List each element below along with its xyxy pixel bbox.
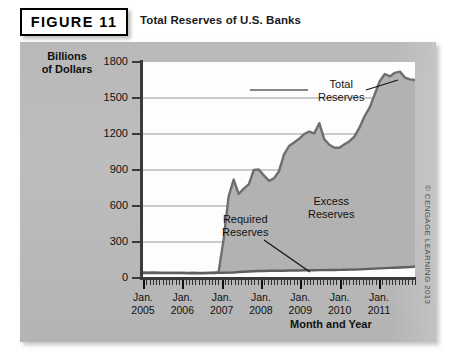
x-axis-major-tick (340, 280, 342, 289)
x-axis-minor-tick (346, 280, 347, 285)
x-axis-label-year: 2008 (249, 304, 272, 316)
x-axis-tick-label: Jan.2011 (355, 291, 403, 316)
x-axis-minor-tick (195, 280, 196, 285)
x-axis-minor-tick (159, 280, 160, 285)
y-axis-tick (132, 61, 141, 63)
x-axis-minor-tick (228, 280, 229, 285)
x-axis-minor-tick (402, 280, 403, 285)
y-axis-tick-label: 1500 (28, 91, 128, 103)
x-axis-label-year: 2011 (368, 304, 391, 316)
x-axis-minor-tick (366, 280, 367, 285)
annotation-excess-reserves-line2: Reserves (308, 208, 354, 220)
x-axis-minor-tick (205, 280, 206, 285)
x-axis-minor-tick (231, 280, 232, 285)
x-axis-minor-tick (146, 280, 147, 285)
x-axis-minor-tick (241, 280, 242, 285)
x-axis-minor-tick (327, 280, 328, 285)
x-axis-minor-tick (353, 280, 354, 285)
x-axis-minor-tick (317, 280, 318, 285)
x-axis-label-month: Jan. (290, 291, 310, 303)
x-axis-minor-tick (333, 280, 334, 285)
x-axis-minor-tick (274, 280, 275, 285)
x-axis-minor-tick (251, 280, 252, 285)
annotation-total-reserves-line1: Total (330, 78, 353, 90)
y-axis-tick-label: 0 (28, 271, 128, 283)
x-axis-label-year: 2007 (210, 304, 233, 316)
x-axis-minor-tick (277, 280, 278, 285)
x-axis-minor-tick (320, 280, 321, 285)
x-axis-minor-tick (248, 280, 249, 285)
x-axis-title: Month and Year (290, 318, 372, 330)
x-axis-label-month: Jan. (330, 291, 350, 303)
x-axis-label-month: Jan. (212, 291, 232, 303)
plot-area (143, 62, 415, 278)
x-axis-minor-tick (284, 280, 285, 285)
y-axis-tick-label: 300 (28, 235, 128, 247)
x-axis-major-tick (300, 280, 302, 289)
x-axis-minor-tick (415, 280, 416, 285)
x-axis-minor-tick (225, 280, 226, 285)
x-axis-minor-tick (412, 280, 413, 285)
x-axis-tickmarks (140, 280, 416, 289)
y-axis-tick (132, 133, 141, 135)
x-axis-minor-tick (281, 280, 282, 285)
x-axis-label-month: Jan. (251, 291, 271, 303)
x-axis-minor-tick (264, 280, 265, 285)
x-axis-label-month: Jan. (369, 291, 389, 303)
x-axis-label-year: 2006 (171, 304, 194, 316)
x-axis-minor-tick (150, 280, 151, 285)
figure-badge-label: FIGURE 11 (31, 14, 118, 30)
x-axis-minor-tick (336, 280, 337, 285)
x-axis-minor-tick (169, 280, 170, 285)
x-axis-minor-tick (212, 280, 213, 285)
x-axis-minor-tick (172, 280, 173, 285)
x-axis-label-year: 2005 (131, 304, 154, 316)
x-axis-major-tick (222, 280, 224, 289)
annotation-required-reserves: Required Reserves (222, 213, 268, 239)
x-axis-minor-tick (189, 280, 190, 285)
x-axis-minor-tick (179, 280, 180, 285)
x-axis-minor-tick (310, 280, 311, 285)
x-axis-minor-tick (307, 280, 308, 285)
annotation-excess-reserves: Excess Reserves (308, 195, 354, 221)
annotation-required-reserves-line2: Reserves (222, 226, 268, 238)
x-axis-minor-tick (343, 280, 344, 285)
x-axis-minor-tick (372, 280, 373, 285)
x-axis-label-month: Jan. (133, 291, 153, 303)
x-axis-minor-tick (163, 280, 164, 285)
x-axis-minor-tick (323, 280, 324, 285)
x-axis-minor-tick (363, 280, 364, 285)
x-axis-minor-tick (290, 280, 291, 285)
x-axis-minor-tick (202, 280, 203, 285)
x-axis-label-year: 2009 (289, 304, 312, 316)
chart-series-svg (143, 62, 415, 278)
annotation-total-reserves: Total Reserves (318, 78, 364, 104)
y-axis-tick (132, 97, 141, 99)
x-axis-minor-tick (209, 280, 210, 285)
x-axis-minor-tick (238, 280, 239, 285)
x-axis-minor-tick (235, 280, 236, 285)
y-axis-tick (132, 169, 141, 171)
x-axis-minor-tick (258, 280, 259, 285)
y-axis-tick-label: 1800 (28, 55, 128, 67)
x-axis-minor-tick (156, 280, 157, 285)
annotation-required-reserves-line1: Required (223, 213, 268, 225)
y-axis-tick (132, 205, 141, 207)
x-axis-minor-tick (287, 280, 288, 285)
x-axis-minor-tick (199, 280, 200, 285)
x-axis-minor-tick (192, 280, 193, 285)
x-axis-minor-tick (356, 280, 357, 285)
x-axis-minor-tick (268, 280, 269, 285)
x-axis-minor-tick (254, 280, 255, 285)
y-axis-tick (132, 241, 141, 243)
annotation-excess-reserves-line1: Excess (314, 195, 349, 207)
x-axis-minor-tick (330, 280, 331, 285)
x-axis-minor-tick (389, 280, 390, 285)
x-axis-minor-tick (294, 280, 295, 285)
x-axis-minor-tick (405, 280, 406, 285)
x-axis-minor-tick (245, 280, 246, 285)
x-axis-minor-tick (186, 280, 187, 285)
y-axis-tick-label: 900 (28, 163, 128, 175)
x-axis-minor-tick (408, 280, 409, 285)
x-axis-major-tick (261, 280, 263, 289)
